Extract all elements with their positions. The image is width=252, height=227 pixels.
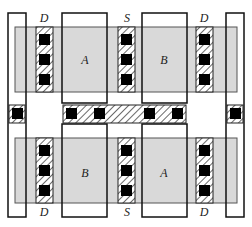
terminal-label-top-drain-2: D xyxy=(200,11,209,26)
substrate-contact-right xyxy=(227,105,243,123)
device-label-bottom-right: A xyxy=(160,166,167,181)
layout-diagram xyxy=(0,0,252,227)
substrate-contact-left xyxy=(9,105,25,123)
contact-strip-top-s xyxy=(118,27,135,92)
device-label-top-left: A xyxy=(81,53,88,68)
contact-strip-bottom-d2 xyxy=(196,138,213,203)
terminal-label-bottom-source: S xyxy=(124,205,130,220)
contact-strip-bottom-d1 xyxy=(36,138,53,203)
contact-strip-bottom-s xyxy=(118,138,135,203)
contact-strip-top-d2 xyxy=(196,27,213,92)
contact-strip-top-d1 xyxy=(36,27,53,92)
terminal-label-bottom-drain-1: D xyxy=(40,205,49,220)
device-label-top-right: B xyxy=(160,53,167,68)
terminal-label-bottom-drain-2: D xyxy=(200,205,209,220)
terminal-label-top-drain-1: D xyxy=(40,11,49,26)
terminal-label-top-source: S xyxy=(124,11,130,26)
gate-interconnect xyxy=(63,105,186,123)
device-label-bottom-left: B xyxy=(81,166,88,181)
